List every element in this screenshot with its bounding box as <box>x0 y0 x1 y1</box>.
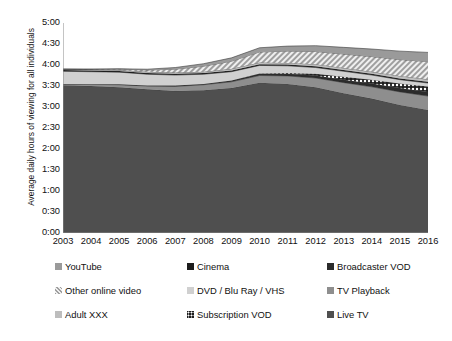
y-tick-label: 3:30 <box>26 81 60 90</box>
chart-legend: YouTubeCinemaBroadcaster VODOther online… <box>55 258 445 334</box>
legend-label: Other online video <box>65 285 141 296</box>
legend-label: TV Playback <box>337 285 390 296</box>
stacked-area-chart: Average daily hours of viewing for all i… <box>0 0 452 341</box>
y-tick-label: 1:00 <box>26 186 60 195</box>
legend-swatch-icon <box>187 263 194 270</box>
x-tick-label: 2009 <box>217 236 247 247</box>
legend-item[interactable]: Subscription VOD <box>187 306 272 322</box>
legend-item[interactable]: DVD / Blu Ray / VHS <box>187 282 285 298</box>
x-tick-label: 2014 <box>357 236 387 247</box>
legend-label: DVD / Blu Ray / VHS <box>197 285 285 296</box>
legend-swatch-icon <box>327 311 334 318</box>
legend-label: Live TV <box>337 309 369 320</box>
legend-item[interactable]: Live TV <box>327 306 369 322</box>
legend-item[interactable]: YouTube <box>55 258 102 274</box>
legend-label: Cinema <box>197 261 229 272</box>
x-axis-tick-labels: 2003200420052006200720082009201020112012… <box>63 236 428 250</box>
legend-item[interactable]: TV Playback <box>327 282 390 298</box>
x-tick-label: 2003 <box>48 236 78 247</box>
y-axis-tick-labels: 0:000:301:001:302:002:303:003:304:004:30… <box>22 0 60 256</box>
legend-item[interactable]: Other online video <box>55 282 141 298</box>
x-tick-label: 2007 <box>160 236 190 247</box>
y-tick-label: 4:00 <box>26 60 60 69</box>
legend-label: Subscription VOD <box>197 309 272 320</box>
legend-label: Adult XXX <box>65 309 108 320</box>
legend-swatch-icon <box>55 311 62 318</box>
x-tick-label: 2004 <box>76 236 106 247</box>
legend-item[interactable]: Adult XXX <box>55 306 108 322</box>
legend-label: YouTube <box>65 261 102 272</box>
y-tick-label: 2:30 <box>26 123 60 132</box>
x-tick-label: 2012 <box>301 236 331 247</box>
x-tick-label: 2010 <box>245 236 275 247</box>
x-tick-label: 2008 <box>188 236 218 247</box>
x-tick-label: 2013 <box>329 236 359 247</box>
legend-swatch-icon <box>327 287 334 294</box>
legend-row: Adult XXXSubscription VODLive TV <box>55 306 445 322</box>
y-tick-label: 0:30 <box>26 207 60 216</box>
x-tick-label: 2006 <box>132 236 162 247</box>
legend-swatch-icon <box>55 287 62 294</box>
legend-swatch-icon <box>187 287 194 294</box>
plot-area <box>63 23 428 233</box>
legend-label: Broadcaster VOD <box>337 261 410 272</box>
y-tick-label: 1:30 <box>26 165 60 174</box>
y-tick-label: 4:30 <box>26 39 60 48</box>
legend-row: Other online videoDVD / Blu Ray / VHSTV … <box>55 282 445 298</box>
legend-swatch-icon <box>187 311 194 318</box>
y-tick-label: 5:00 <box>26 18 60 27</box>
x-tick-label: 2005 <box>104 236 134 247</box>
legend-row: YouTubeCinemaBroadcaster VOD <box>55 258 445 274</box>
y-tick-label: 2:00 <box>26 144 60 153</box>
area-series-live-tv <box>63 83 428 233</box>
x-tick-label: 2011 <box>273 236 303 247</box>
legend-swatch-icon <box>327 263 334 270</box>
legend-swatch-icon <box>55 263 62 270</box>
legend-item[interactable]: Broadcaster VOD <box>327 258 410 274</box>
legend-item[interactable]: Cinema <box>187 258 229 274</box>
plot-svg <box>63 23 428 233</box>
x-tick-label: 2016 <box>413 236 443 247</box>
x-tick-label: 2015 <box>385 236 415 247</box>
y-tick-label: 3:00 <box>26 102 60 111</box>
